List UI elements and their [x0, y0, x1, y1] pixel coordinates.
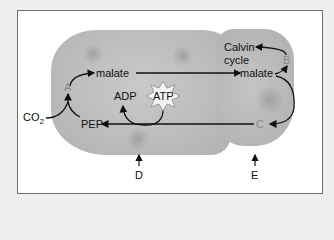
co2-subscript: 2 [40, 117, 44, 126]
calvin-cycle-label-line1: Calvin [224, 42, 255, 53]
marker-c: C [256, 119, 264, 130]
marker-d: D [135, 170, 143, 181]
atp-label: ATP [153, 91, 174, 102]
adp-label: ADP [114, 91, 137, 102]
marker-a: A [64, 82, 71, 93]
co2-label: CO2 [23, 112, 44, 126]
pep-label: PEP [81, 119, 103, 130]
calvin-cycle-label-line2: cycle [224, 55, 249, 66]
marker-e: E [251, 170, 258, 181]
malate-mesophyll-label: malate [96, 68, 129, 79]
malate-bundle-sheath-label: malate [240, 68, 273, 79]
marker-b: B [283, 55, 290, 66]
co2-text: CO [23, 111, 40, 123]
